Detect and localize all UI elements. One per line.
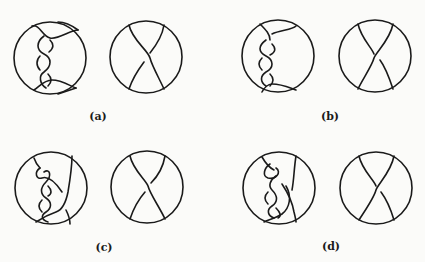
tangle-boundary-circle	[340, 152, 412, 224]
panel-label-d: (d)	[322, 241, 340, 252]
tangle-boundary-circle	[111, 151, 183, 223]
tangle-boundary-circle	[242, 20, 314, 92]
panel-c-right-tangle	[111, 151, 183, 223]
panel-d-right-tangle	[340, 152, 412, 224]
panel-label-a: (a)	[89, 111, 107, 122]
panel-a-left-tangle	[14, 22, 86, 94]
panel-c-left-tangle	[15, 152, 87, 224]
panel-b-right-tangle	[339, 20, 411, 92]
tangle-figure: (a) (b) (c) (d)	[0, 0, 425, 262]
panel-d-left-tangle	[243, 152, 315, 224]
panel-label-c: (c)	[95, 242, 112, 253]
panel-label-b: (b)	[321, 111, 339, 122]
tangle-boundary-circle	[110, 21, 182, 93]
tangle-diagrams-svg	[0, 0, 425, 262]
panel-b-left-tangle	[242, 20, 314, 92]
panel-a-right-tangle	[110, 21, 182, 93]
